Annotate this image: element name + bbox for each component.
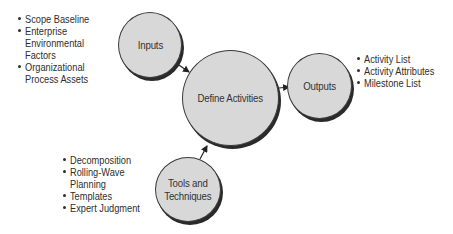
- node-tools-label-line1: Tools and: [168, 177, 208, 189]
- edge-tools-to-define: [200, 146, 207, 159]
- bullet-icon: [18, 29, 21, 32]
- bullet-icon: [63, 170, 66, 173]
- bullet-icon: [63, 194, 66, 197]
- list-item: Organizational Process Assets: [18, 61, 98, 85]
- bullet-icon: [357, 81, 360, 84]
- bullet-icon: [63, 206, 66, 209]
- node-define-activities: Define Activities: [182, 50, 279, 146]
- node-tools-label: Tools and Techniques: [164, 177, 211, 203]
- outputs-list: Activity List Activity Attributes Milest…: [357, 53, 444, 89]
- list-item: Decomposition: [63, 154, 149, 166]
- bullet-icon: [63, 158, 66, 161]
- list-item: Templates: [63, 190, 149, 202]
- bullet-icon: [357, 57, 360, 60]
- diagram-canvas: Inputs Define Activities Outputs Tools a…: [0, 0, 453, 234]
- list-item: Activity Attributes: [357, 65, 444, 77]
- node-define-activities-label: Define Activities: [198, 92, 263, 105]
- node-tools-and-techniques: Tools and Techniques: [155, 157, 221, 222]
- tools-list: Decomposition Rolling-Wave Planning Temp…: [63, 154, 149, 214]
- node-tools-label-line2: Techniques: [164, 190, 211, 202]
- bullet-icon: [18, 17, 21, 20]
- list-item: Activity List: [357, 53, 444, 65]
- list-item: Scope Baseline: [18, 13, 98, 25]
- node-outputs-label: Outputs: [303, 80, 336, 93]
- node-outputs: Outputs: [287, 53, 352, 119]
- list-item: Expert Judgment: [63, 202, 149, 214]
- list-item: Enterprise Environmental Factors: [18, 25, 98, 61]
- bullet-icon: [357, 69, 360, 72]
- list-item: Rolling-Wave Planning: [63, 166, 149, 190]
- node-inputs-label: Inputs: [137, 39, 162, 52]
- list-item: Milestone List: [357, 77, 444, 89]
- node-inputs: Inputs: [118, 12, 182, 78]
- edge-inputs-to-define: [176, 63, 189, 72]
- bullet-icon: [18, 65, 21, 68]
- inputs-list: Scope Baseline Enterprise Environmental …: [18, 13, 98, 85]
